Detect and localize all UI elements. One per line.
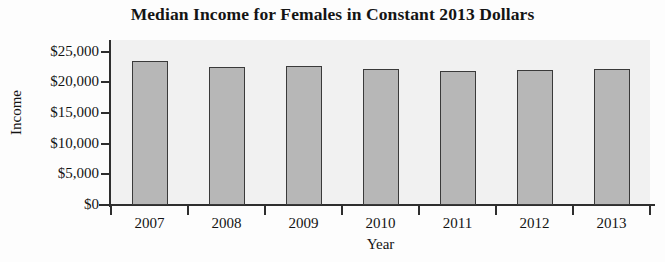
bar-chart: Median Income for Females in Constant 20… bbox=[0, 0, 665, 262]
y-axis-tick-label-wrap: $15,000 bbox=[0, 105, 99, 120]
x-axis-tick bbox=[418, 206, 420, 215]
bar bbox=[209, 67, 245, 205]
x-axis-tick bbox=[110, 206, 112, 215]
x-axis-tick-label: 2012 bbox=[500, 215, 570, 232]
y-axis-tick bbox=[101, 112, 111, 114]
y-axis-tick-label-wrap: $20,000 bbox=[0, 74, 99, 89]
y-axis-line bbox=[109, 40, 111, 207]
y-axis-tick-label: $10,000 bbox=[3, 136, 99, 151]
y-axis-tick-label-wrap: $0 bbox=[0, 197, 99, 212]
bar bbox=[517, 70, 553, 205]
x-axis-tick-label: 2007 bbox=[115, 215, 185, 232]
chart-title: Median Income for Females in Constant 20… bbox=[0, 4, 665, 25]
y-axis-tick-label: $20,000 bbox=[3, 74, 99, 89]
y-axis-tick-label-wrap: $10,000 bbox=[0, 136, 99, 151]
x-axis-tick bbox=[264, 206, 266, 215]
y-axis-tick-label-wrap: $5,000 bbox=[0, 166, 99, 181]
x-axis-tick-label: 2013 bbox=[577, 215, 647, 232]
bar bbox=[363, 69, 399, 205]
y-axis-tick-label: $25,000 bbox=[3, 44, 99, 59]
y-axis-tick-label-wrap: $25,000 bbox=[0, 44, 99, 59]
y-axis-tick-label: $15,000 bbox=[3, 105, 99, 120]
y-axis-tick bbox=[101, 143, 111, 145]
x-axis-tick bbox=[572, 206, 574, 215]
y-axis-tick bbox=[101, 173, 111, 175]
x-axis-tick bbox=[649, 206, 651, 215]
bar bbox=[286, 66, 322, 205]
bar bbox=[132, 61, 168, 205]
y-axis-tick bbox=[101, 81, 111, 83]
x-axis-tick-label: 2010 bbox=[346, 215, 416, 232]
x-axis-title: Year bbox=[111, 236, 650, 253]
x-axis-tick-label: 2009 bbox=[269, 215, 339, 232]
x-axis-tick bbox=[341, 206, 343, 215]
x-axis-tick bbox=[495, 206, 497, 215]
bar bbox=[440, 71, 476, 205]
y-axis-tick-label: $5,000 bbox=[3, 166, 99, 181]
x-axis-tick-label: 2011 bbox=[423, 215, 493, 232]
bar bbox=[594, 69, 630, 205]
x-axis-tick-label: 2008 bbox=[192, 215, 262, 232]
y-axis-tick bbox=[101, 51, 111, 53]
y-axis-tick-label: $0 bbox=[3, 197, 99, 212]
x-axis-tick bbox=[187, 206, 189, 215]
